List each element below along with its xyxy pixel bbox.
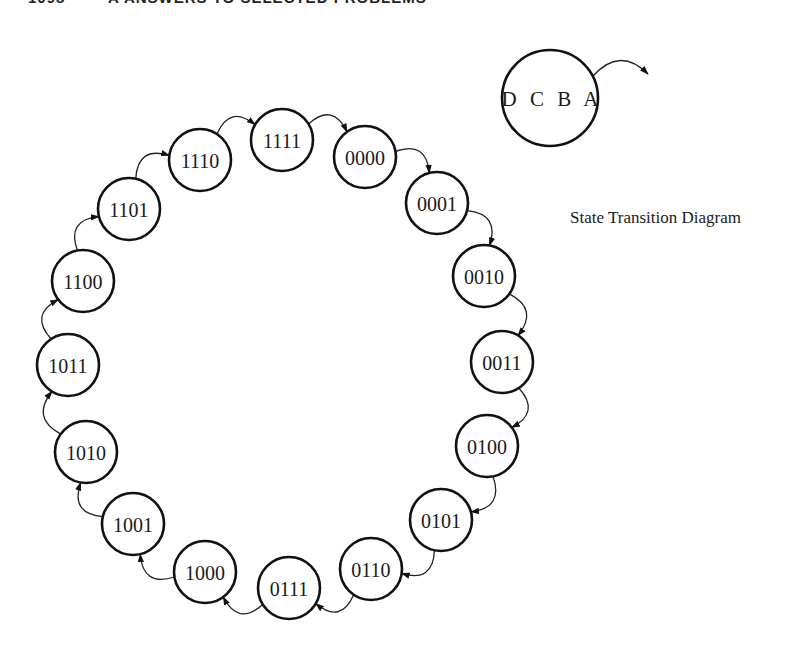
state-label: 1011 — [48, 355, 87, 377]
state-label: 1001 — [113, 514, 153, 536]
state-0111: 0111 — [258, 557, 320, 619]
diagram-caption: State Transition Diagram — [570, 208, 741, 228]
transition-arrow-1000-to-1001 — [140, 554, 174, 579]
transition-arrow-1001-to-1010 — [78, 483, 103, 517]
transition-arrow-0101-to-0110 — [402, 550, 435, 575]
state-1011: 1011 — [37, 334, 99, 396]
state-label: 0110 — [351, 559, 390, 581]
state-label: 0000 — [345, 147, 385, 169]
transition-arrow-1011-to-1100 — [42, 300, 59, 339]
state-label: 1110 — [181, 150, 220, 172]
transition-arrow-0001-to-0010 — [467, 211, 492, 246]
state-0110: 0110 — [340, 538, 402, 600]
state-1101: 1101 — [98, 178, 160, 240]
state-1010: 1010 — [55, 421, 117, 483]
transition-arrow-0000-to-0001 — [396, 149, 430, 173]
state-label: 0100 — [467, 436, 507, 458]
state-0100: 0100 — [456, 415, 518, 477]
state-1111: 1111 — [251, 109, 313, 171]
state-transition-diagram: 0000000100100011010001010110011110001001… — [0, 0, 812, 656]
state-1100: 1100 — [52, 250, 114, 312]
transition-arrow-1010-to-1011 — [43, 392, 61, 435]
transition-arrow-0111-to-1000 — [223, 597, 262, 614]
transition-arrow-1101-to-1110 — [136, 153, 170, 178]
state-label: 1100 — [63, 271, 102, 293]
transition-arrow-1110-to-1111 — [217, 116, 255, 134]
legend-key: D C B A — [502, 50, 648, 146]
state-1000: 1000 — [174, 541, 236, 603]
state-nodes: 0000000100100011010001010110011110001001… — [37, 109, 533, 619]
transition-arrow-1111-to-0000 — [309, 115, 348, 132]
state-label: 0011 — [482, 352, 521, 374]
state-label: 1101 — [109, 199, 148, 221]
state-0010: 0010 — [453, 245, 515, 307]
transition-arrow-0011-to-0100 — [512, 388, 529, 427]
state-label: 0101 — [421, 510, 461, 532]
state-1110: 1110 — [169, 129, 231, 191]
state-0101: 0101 — [410, 489, 472, 551]
transition-arrow-0100-to-0101 — [471, 476, 496, 512]
state-1001: 1001 — [102, 493, 164, 555]
state-0000: 0000 — [334, 126, 396, 188]
state-0011: 0011 — [471, 331, 533, 393]
state-label: 1111 — [263, 130, 301, 152]
transition-arrow-0010-to-0011 — [509, 294, 526, 336]
transition-arrow-1100-to-1101 — [75, 217, 99, 251]
state-label: 0010 — [464, 266, 504, 288]
key-label: D C B A — [502, 87, 603, 111]
transition-arrow-0110-to-0111 — [316, 595, 354, 612]
key-arrow — [593, 60, 648, 76]
state-label: 0001 — [417, 193, 457, 215]
state-label: 0111 — [270, 578, 309, 600]
state-0001: 0001 — [406, 172, 468, 234]
state-label: 1010 — [66, 442, 106, 464]
state-label: 1000 — [185, 562, 225, 584]
